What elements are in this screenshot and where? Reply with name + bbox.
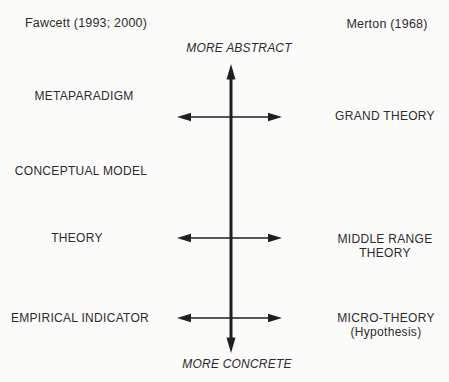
more-concrete-label: MORE CONCRETE [182, 358, 291, 372]
merton-level-middle-range-theory: MIDDLE RANGE THEORY [337, 233, 433, 261]
fawcett-level-metaparadigm: METAPARADIGM [34, 90, 133, 104]
fawcett-attribution: Fawcett (1993; 2000) [25, 16, 147, 30]
more-abstract-label: MORE ABSTRACT [186, 42, 292, 56]
level-arrow-middle-range-icon [177, 234, 282, 242]
merton-level-micro-theory: MICRO-THEORY (Hypothesis) [337, 311, 434, 340]
vertical-axis-arrow-icon [227, 64, 236, 353]
fawcett-level-conceptual-model: CONCEPTUAL MODEL [15, 165, 147, 179]
fawcett-level-theory: THEORY [51, 232, 103, 246]
merton-level-grand-theory: GRAND THEORY [335, 110, 435, 124]
fawcett-level-empirical-indicator: EMPIRICAL INDICATOR [11, 312, 149, 326]
abstraction-ladder-diagram: Fawcett (1993; 2000) Merton (1968) MORE … [0, 0, 449, 382]
level-arrow-grand-theory-icon [177, 113, 282, 121]
micro-theory-sublabel: (Hypothesis) [337, 325, 434, 339]
merton-attribution: Merton (1968) [346, 17, 427, 31]
micro-theory-label: MICRO-THEORY [337, 311, 434, 325]
level-arrow-micro-theory-icon [177, 314, 282, 322]
